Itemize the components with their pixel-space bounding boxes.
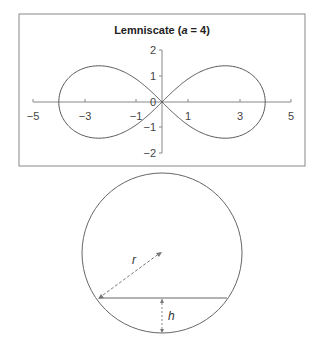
svg-text:5: 5 (288, 110, 294, 122)
radius-line (99, 253, 160, 298)
svg-text:0: 0 (150, 96, 156, 108)
svg-text:−3: −3 (79, 110, 92, 122)
height-arrow-down-icon (160, 329, 164, 333)
chart-title: Lemniscate (a = 4) (114, 24, 210, 36)
svg-text:3: 3 (237, 110, 243, 122)
svg-text:2: 2 (150, 44, 156, 56)
svg-text:−5: −5 (27, 110, 40, 122)
svg-text:1: 1 (150, 70, 156, 82)
svg-text:−1: −1 (143, 121, 156, 133)
height-label: h (168, 309, 175, 323)
circle-diagram: r h (82, 173, 242, 333)
figure: Lemniscate (a = 4) −5 −3 −1 1 3 5 2 1 0 … (0, 0, 317, 342)
svg-text:1: 1 (185, 110, 191, 122)
svg-text:−1: −1 (130, 110, 143, 122)
svg-text:−2: −2 (143, 147, 156, 159)
height-arrow-up-icon (160, 299, 164, 303)
radius-label: r (132, 253, 137, 267)
radius-arrowhead-icon (156, 252, 162, 257)
